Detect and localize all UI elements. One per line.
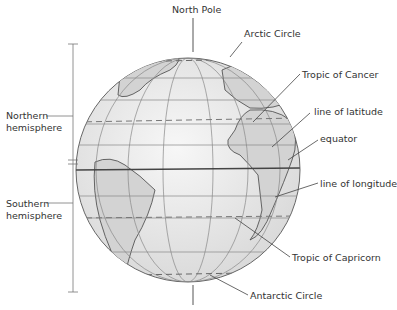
southern-line2: hemisphere <box>6 210 62 221</box>
label-line-of-longitude: line of longitude <box>320 178 397 190</box>
label-equator: equator <box>320 133 357 145</box>
label-north-pole: North Pole <box>172 4 221 16</box>
label-tropic-of-cancer: Tropic of Cancer <box>302 69 378 81</box>
southern-line1: Southern <box>6 198 49 209</box>
label-line-of-latitude: line of latitude <box>314 106 383 118</box>
hemisphere-brackets <box>46 44 78 292</box>
label-tropic-of-capricorn: Tropic of Capricorn <box>292 252 381 264</box>
label-antarctic-circle: Antarctic Circle <box>250 290 322 302</box>
label-arctic-circle: Arctic Circle <box>244 28 301 40</box>
northern-line2: hemisphere <box>6 122 62 133</box>
northern-line1: Northern <box>6 110 48 121</box>
label-northern-hemisphere: Northernhemisphere <box>6 110 62 134</box>
label-southern-hemisphere: Southernhemisphere <box>6 198 62 222</box>
